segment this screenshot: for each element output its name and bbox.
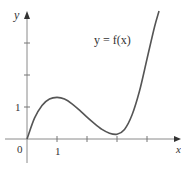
y-tick-label-1: 1 xyxy=(15,101,21,113)
x-tick-label-1: 1 xyxy=(55,145,61,157)
function-curve xyxy=(27,11,159,139)
y-axis-label: y xyxy=(13,8,20,22)
origin-label: 0 xyxy=(17,143,23,155)
x-axis-arrow-icon xyxy=(174,136,181,142)
curve-label: y = f(x) xyxy=(94,33,131,47)
x-axis-label: x xyxy=(175,143,181,155)
y-axis-arrow-icon xyxy=(24,11,30,19)
function-graph: y x 0 1 1 y = f(x) xyxy=(0,0,181,176)
